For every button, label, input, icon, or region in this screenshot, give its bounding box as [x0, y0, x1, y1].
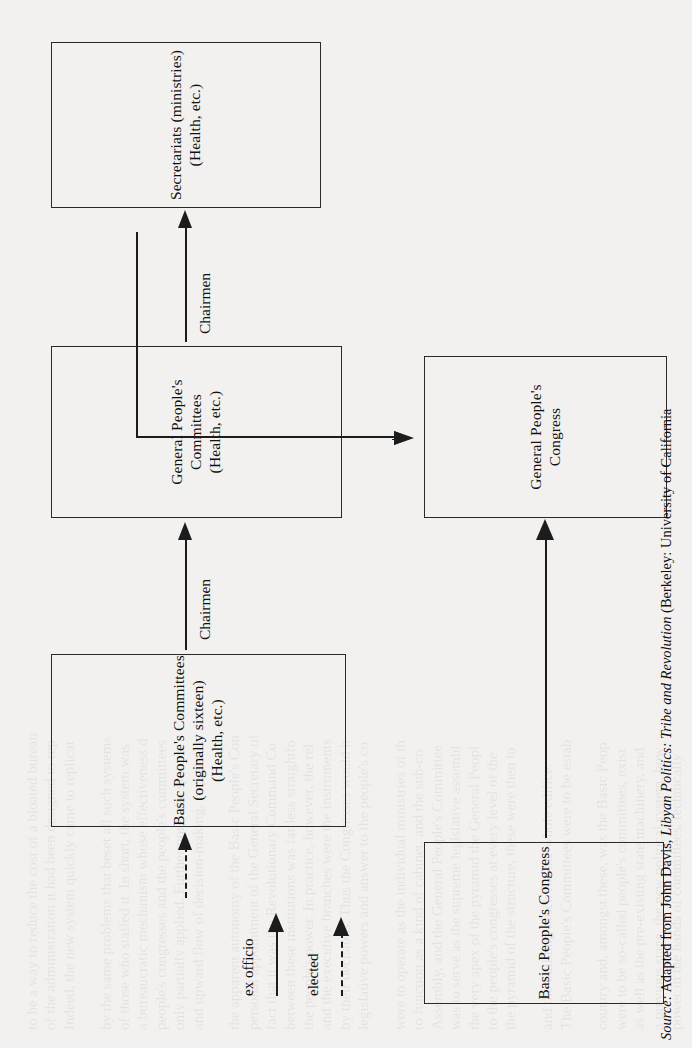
source-credit: Source: Adapted from John Davis, Libyan … [658, 409, 675, 1040]
legend-label-ex-officio: ex officio [240, 938, 257, 996]
legend-elected-arrow-shaft [341, 932, 343, 996]
arrow-bpcommittees-to-gpcommittees-head [178, 522, 192, 540]
legend-ex-officio-arrow-shaft [276, 928, 278, 996]
box-general-peoples-committees-line-2: (Health, etc.) [206, 391, 225, 474]
arrow-bpcongress-to-bpcommittees-head [178, 832, 192, 850]
box-general-peoples-congress-line-1: General People's Congress [527, 357, 565, 517]
arrow-bpcommittees-to-gpcommittees-shaft [185, 538, 187, 650]
legend-elected-arrow-head [333, 917, 349, 936]
elbow-down-riser [136, 436, 398, 438]
elbow-top-run [136, 232, 138, 438]
figure-page: Secretariats (ministries) (Health, etc.)… [0, 0, 692, 1048]
source-body-before: Adapted from John Davis, [658, 836, 674, 996]
arrow-bpcongress-to-gpcongress-shaft [545, 536, 547, 838]
arrow-bpcongress-to-bpcommittees-shaft [185, 846, 187, 898]
box-general-peoples-committees[interactable]: General People's Committees (Health, etc… [51, 346, 342, 518]
diagram-stage: Secretariats (ministries) (Health, etc.)… [0, 0, 692, 1048]
arrow-gpcommittees-to-secretariats-head [178, 210, 192, 228]
source-prefix: Source: [658, 995, 674, 1040]
arrow-bpcongress-to-gpcongress-head [536, 519, 554, 540]
box-basic-peoples-committees-line-2: (originally sixteen) (Health, etc.) [189, 655, 227, 826]
box-basic-peoples-committees[interactable]: Basic People's Committees (originally si… [51, 654, 346, 827]
source-title: Libyan Politics: Tribe and Revolution [658, 617, 674, 836]
box-general-peoples-committees-line-1: General People's Committees [168, 347, 206, 517]
box-secretariats[interactable]: Secretariats (ministries) (Health, etc.) [51, 42, 321, 208]
legend-label-elected: elected [305, 954, 322, 996]
box-basic-peoples-congress-line-1: Basic People's Congress [535, 846, 554, 999]
legend-ex-officio-arrow-head [268, 913, 284, 932]
source-body-after: (Berkeley: University of California [658, 409, 674, 617]
box-basic-peoples-congress[interactable]: Basic People's Congress [424, 842, 664, 1004]
box-general-peoples-congress[interactable]: General People's Congress [424, 356, 667, 518]
arrow-gpcommittees-to-secretariats-shaft [185, 226, 187, 342]
box-secretariats-line-2: (Health, etc.) [186, 84, 205, 167]
box-basic-peoples-committees-line-1: Basic People's Committees [170, 655, 189, 826]
edge-label-chairmen-upper: Chairmen [196, 273, 214, 334]
elbow-down-head [394, 432, 414, 446]
edge-label-chairmen-lower: Chairmen [196, 579, 214, 640]
box-secretariats-line-1: Secretariats (ministries) [167, 50, 186, 200]
